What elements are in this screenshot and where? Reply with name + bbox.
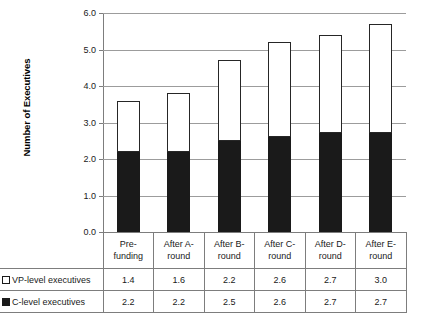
table-cell-value: 2.7 (305, 269, 356, 291)
y-axis-tick-label: 5.0 (83, 45, 96, 55)
table-row: VP-level executives1.41.62.22.62.73.0 (0, 269, 406, 291)
gridline (103, 123, 406, 124)
x-axis-category-label: After C-round (255, 233, 306, 269)
square-filled-icon (2, 298, 10, 306)
bar-segment-c-level (117, 152, 140, 232)
bar-segment-vp-level (218, 60, 241, 140)
bar-segment-c-level (319, 133, 342, 232)
stacked-bar-chart: Number of Executives 6.05.04.03.02.01.00… (0, 0, 426, 314)
bar-segment-c-level (167, 152, 190, 232)
y-axis-title: Number of Executives (21, 38, 32, 178)
table-cell-value: 2.5 (204, 291, 255, 313)
gridline (103, 159, 406, 160)
x-axis-category-label: After A-round (154, 233, 205, 269)
y-axis-tick (99, 50, 103, 51)
y-axis-tick (99, 13, 103, 14)
table-cell-value: 2.2 (154, 291, 205, 313)
gridline (103, 50, 406, 51)
bar-segment-vp-level (319, 35, 342, 134)
table-cell-value: 1.6 (154, 269, 205, 291)
legend-label: VP-level executives (12, 275, 91, 285)
plot-area: 6.05.04.03.02.01.00.0 (103, 13, 406, 232)
table-cell-value: 2.7 (356, 291, 407, 313)
y-axis-tick (99, 86, 103, 87)
table-row-categories: Pre-fundingAfter A-roundAfter B-roundAft… (0, 233, 406, 269)
y-axis-tick-label: 3.0 (83, 118, 96, 128)
data-table: Pre-fundingAfter A-roundAfter B-roundAft… (0, 232, 407, 313)
gridline (103, 196, 406, 197)
x-axis-category-label: After B-round (204, 233, 255, 269)
y-axis-tick-label: 1.0 (83, 191, 96, 201)
bar-segment-c-level (268, 137, 291, 232)
bar-segment-vp-level (117, 101, 140, 152)
x-axis-category-label: After D-round (305, 233, 356, 269)
table-corner-cell (0, 233, 103, 269)
legend-item[interactable]: C-level executives (0, 291, 103, 313)
table-cell-value: 2.2 (103, 291, 154, 313)
gridline (103, 86, 406, 87)
x-axis-category-label: After E-round (356, 233, 407, 269)
x-axis-category-label: Pre-funding (103, 233, 154, 269)
legend-label: C-level executives (12, 297, 85, 307)
y-axis-tick (99, 159, 103, 160)
y-axis-tick (99, 123, 103, 124)
gridline (103, 13, 406, 14)
table-cell-value: 3.0 (356, 269, 407, 291)
y-axis-tick (99, 196, 103, 197)
square-outline-icon (2, 276, 10, 284)
table-row: C-level executives2.22.22.52.62.72.7 (0, 291, 406, 313)
table-cell-value: 2.6 (255, 291, 306, 313)
legend-item[interactable]: VP-level executives (0, 269, 103, 291)
table-cell-value: 2.7 (305, 291, 356, 313)
y-axis-tick-label: 4.0 (83, 81, 96, 91)
bar-segment-vp-level (167, 93, 190, 151)
y-axis-tick-label: 6.0 (83, 8, 96, 18)
bar-segment-c-level (218, 141, 241, 232)
bar-segment-c-level (369, 133, 392, 232)
table-cell-value: 2.2 (204, 269, 255, 291)
bar-segment-vp-level (268, 42, 291, 137)
bar-segment-vp-level (369, 24, 392, 134)
y-axis-tick-label: 2.0 (83, 154, 96, 164)
table-cell-value: 1.4 (103, 269, 154, 291)
table-cell-value: 2.6 (255, 269, 306, 291)
